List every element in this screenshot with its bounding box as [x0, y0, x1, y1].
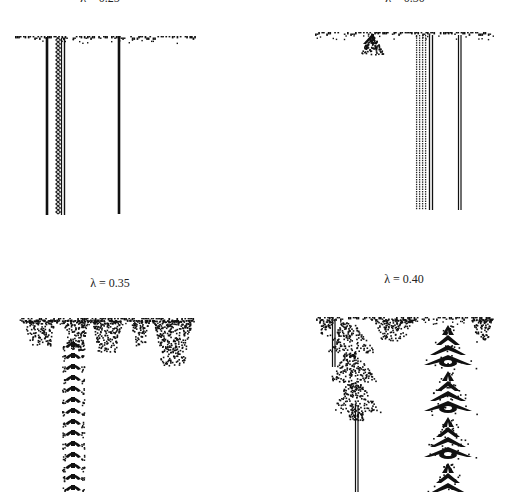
- particle-line: [416, 35, 417, 209]
- particle-line: [432, 35, 433, 210]
- particle-line: [118, 37, 121, 214]
- particle-line: [419, 35, 420, 209]
- particle-line: [422, 35, 423, 209]
- particle-line: [355, 405, 356, 492]
- particle-line: [46, 37, 49, 215]
- particle-line: [425, 35, 426, 209]
- particle-line: [429, 35, 430, 210]
- particle-line: [458, 35, 459, 210]
- particle-line: [64, 38, 65, 215]
- top-band-top-left: [15, 36, 196, 44]
- particle-line: [357, 405, 358, 492]
- space-time-diagrams: [0, 0, 508, 492]
- particle-line: [332, 321, 333, 367]
- particle-line: [61, 38, 62, 215]
- top-band-top-right: [315, 32, 494, 40]
- tree-glider: [424, 463, 472, 492]
- particle-line: [334, 321, 335, 367]
- particle-line: [460, 35, 461, 210]
